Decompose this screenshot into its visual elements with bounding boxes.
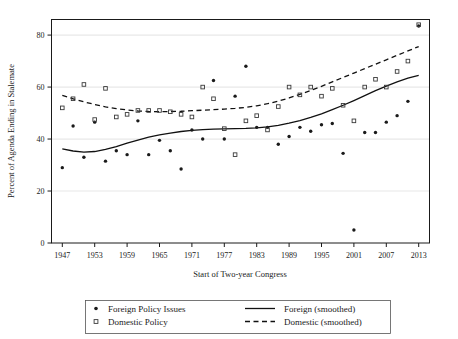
data-point-foreign	[61, 166, 64, 169]
data-point-foreign	[223, 137, 226, 140]
data-point-foreign	[331, 122, 334, 125]
y-tick-label: 60	[37, 83, 45, 92]
y-tick-label: 0	[41, 239, 45, 248]
data-point-foreign	[277, 143, 280, 146]
data-point-foreign	[115, 149, 118, 152]
data-point-foreign	[385, 120, 388, 123]
data-point-foreign	[169, 149, 172, 152]
legend-label: Domestic (smoothed)	[284, 317, 362, 327]
x-tick-label: 1959	[119, 251, 135, 260]
y-tick-label: 80	[37, 31, 45, 40]
y-tick-label: 20	[37, 187, 45, 196]
data-point-foreign	[158, 139, 161, 142]
data-point-foreign	[406, 100, 409, 103]
data-point-foreign	[233, 94, 236, 97]
chart-legend: Foreign Policy IssuesDomestic PolicyFore…	[86, 301, 391, 334]
data-point-foreign	[125, 153, 128, 156]
x-tick-label: 2001	[346, 251, 362, 260]
x-tick-label: 1995	[314, 251, 330, 260]
data-point-foreign	[395, 114, 398, 117]
legend-label: Domestic Policy	[108, 317, 168, 327]
data-point-foreign	[244, 65, 247, 68]
data-point-foreign	[82, 156, 85, 159]
data-point-foreign	[320, 123, 323, 126]
x-tick-label: 2007	[378, 251, 394, 260]
data-point-foreign	[374, 131, 377, 134]
data-point-foreign	[190, 128, 193, 131]
x-tick-label: 1989	[281, 251, 297, 260]
data-point-foreign	[298, 126, 301, 129]
data-point-foreign	[363, 131, 366, 134]
x-tick-label: 1977	[216, 251, 232, 260]
data-point-foreign	[179, 167, 182, 170]
data-point-foreign	[71, 124, 74, 127]
y-axis-title: Percent of Agenda Ending in Stalemate	[6, 64, 16, 198]
x-tick-label: 1947	[54, 251, 70, 260]
legend-marker-filled-circle-icon	[94, 307, 98, 311]
data-point-foreign	[341, 152, 344, 155]
x-tick-label: 1971	[184, 251, 200, 260]
data-point-foreign	[104, 159, 107, 162]
chart-figure: 020406080 194719531959196519711977198319…	[0, 0, 458, 339]
legend-label: Foreign (smoothed)	[284, 304, 355, 314]
legend-label: Foreign Policy Issues	[108, 304, 186, 314]
x-tick-label: 1965	[152, 251, 168, 260]
data-point-foreign	[147, 153, 150, 156]
stalemate-scatter-chart: 020406080 194719531959196519711977198319…	[0, 0, 458, 339]
data-point-foreign	[212, 79, 215, 82]
x-axis-title: Start of Two-year Congress	[193, 269, 286, 279]
x-tick-label: 1983	[249, 251, 265, 260]
chart-background	[0, 0, 458, 339]
y-tick-label: 40	[37, 135, 45, 144]
data-point-foreign	[287, 135, 290, 138]
x-tick-label: 2013	[411, 251, 427, 260]
data-point-foreign	[417, 24, 420, 27]
data-point-foreign	[201, 137, 204, 140]
data-point-foreign	[352, 228, 355, 231]
data-point-foreign	[136, 119, 139, 122]
data-point-foreign	[309, 130, 312, 133]
x-tick-label: 1953	[87, 251, 103, 260]
data-point-foreign	[255, 126, 258, 129]
